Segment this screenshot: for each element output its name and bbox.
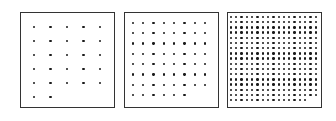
dot <box>283 31 285 33</box>
dot <box>293 16 295 18</box>
dot <box>283 52 285 54</box>
dot <box>309 89 311 91</box>
dot <box>309 31 311 33</box>
dot <box>246 83 248 85</box>
dot <box>183 84 185 86</box>
dot <box>256 52 258 54</box>
dot <box>309 78 311 80</box>
dot <box>309 16 311 18</box>
dot <box>267 26 269 28</box>
dot <box>194 73 196 75</box>
dot <box>267 52 269 54</box>
dot <box>272 52 274 54</box>
dot <box>152 42 154 44</box>
dot <box>132 73 134 75</box>
dot <box>315 63 317 65</box>
dot <box>309 94 311 96</box>
dot <box>183 22 185 24</box>
dot <box>246 26 248 28</box>
dot <box>230 78 232 80</box>
dot <box>262 57 264 59</box>
dot <box>152 22 154 24</box>
dot <box>240 37 242 39</box>
dot <box>278 57 280 59</box>
dot <box>293 57 295 59</box>
dot <box>267 78 269 80</box>
dot <box>309 26 311 28</box>
dot <box>262 63 264 65</box>
dot <box>309 42 311 44</box>
dot <box>309 68 311 70</box>
dot <box>152 53 154 55</box>
dot <box>293 89 295 91</box>
dot <box>152 84 154 86</box>
dot <box>293 31 295 33</box>
dot <box>278 83 280 85</box>
dot <box>293 83 295 85</box>
dot <box>293 42 295 44</box>
dot <box>246 52 248 54</box>
dot <box>272 94 274 96</box>
dot <box>240 26 242 28</box>
dot <box>256 94 258 96</box>
dot <box>262 26 264 28</box>
dot <box>246 89 248 91</box>
dot <box>240 89 242 91</box>
dot <box>272 83 274 85</box>
dot <box>272 89 274 91</box>
dot <box>299 83 301 85</box>
dot <box>163 42 165 44</box>
dot <box>194 22 196 24</box>
dot <box>194 42 196 44</box>
dot <box>293 68 295 70</box>
dot <box>194 84 196 86</box>
dot <box>262 78 264 80</box>
dot <box>299 37 301 39</box>
dot <box>183 42 185 44</box>
dot <box>246 57 248 59</box>
dot <box>163 73 165 75</box>
dot <box>230 26 232 28</box>
dot <box>315 89 317 91</box>
dot <box>272 37 274 39</box>
dot <box>299 26 301 28</box>
dot <box>246 63 248 65</box>
dot <box>240 63 242 65</box>
dot <box>299 63 301 65</box>
dot <box>278 16 280 18</box>
dot <box>272 63 274 65</box>
dot <box>183 73 185 75</box>
dot <box>278 31 280 33</box>
dot <box>246 37 248 39</box>
dot <box>204 42 206 44</box>
dot <box>132 84 134 86</box>
dot <box>152 73 154 75</box>
dot <box>278 89 280 91</box>
dot <box>163 53 165 55</box>
dot <box>278 68 280 70</box>
dot <box>204 73 206 75</box>
dot <box>315 52 317 54</box>
dot <box>256 31 258 33</box>
dot <box>262 89 264 91</box>
dot <box>230 52 232 54</box>
dot <box>293 26 295 28</box>
dot <box>256 26 258 28</box>
dot <box>246 78 248 80</box>
dot <box>272 68 274 70</box>
dot <box>293 52 295 54</box>
dot <box>256 57 258 59</box>
panel-medium <box>124 12 219 108</box>
dot <box>262 83 264 85</box>
dot <box>283 83 285 85</box>
dot <box>309 37 311 39</box>
dot <box>278 26 280 28</box>
dot <box>256 63 258 65</box>
dot <box>262 37 264 39</box>
dot <box>230 57 232 59</box>
dot <box>278 78 280 80</box>
dot <box>256 78 258 80</box>
dot <box>299 52 301 54</box>
dot <box>272 26 274 28</box>
dot <box>278 52 280 54</box>
